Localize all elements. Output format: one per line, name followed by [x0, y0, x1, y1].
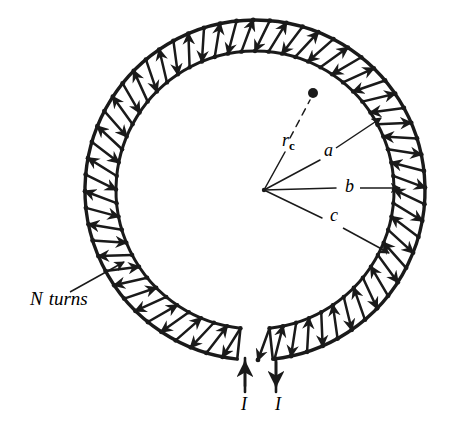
winding-outer-node: [395, 280, 400, 285]
winding-outer-node: [289, 354, 294, 359]
winding-outer-node: [234, 19, 239, 24]
label-current-in: I: [240, 394, 248, 414]
winding-turn: [391, 217, 418, 237]
winding-inner-node: [125, 134, 129, 138]
winding-inner-node: [307, 316, 311, 320]
winding-turn: [321, 312, 322, 346]
winding-inner-node: [266, 49, 270, 53]
winding-outer-node: [331, 37, 336, 42]
winding-inner-node: [389, 160, 393, 164]
winding-outer-node: [305, 349, 310, 354]
winding-inner-node: [114, 201, 118, 205]
winding-turn: [275, 326, 283, 359]
winding-inner-node: [187, 65, 191, 69]
winding-turn: [228, 21, 237, 54]
winding-turn: [93, 240, 127, 242]
winding-inner-node: [164, 295, 168, 299]
winding-outer-node: [409, 120, 414, 125]
winding-turn: [97, 126, 122, 149]
winding-inner-node: [238, 326, 242, 330]
winding-inner-node: [360, 99, 364, 103]
winding-turn: [191, 323, 214, 348]
winding-inner-node: [115, 174, 119, 178]
winding-turn: [307, 318, 309, 352]
winding-outer-node: [83, 172, 88, 177]
winding-outer-node: [383, 78, 388, 83]
label-radius-a: a: [324, 140, 333, 160]
winding-outer-node: [422, 202, 427, 207]
winding-inner-node: [351, 89, 355, 93]
winding-outer-node: [96, 254, 101, 259]
winding-inner-node: [199, 316, 203, 320]
winding-outer-node: [359, 55, 364, 60]
winding-inner-node: [212, 321, 216, 325]
winding-outer-node: [371, 66, 376, 71]
winding-turn: [370, 108, 403, 113]
winding-inner-node: [369, 264, 373, 268]
winding-turn: [146, 60, 157, 92]
winding-outer-node: [419, 152, 424, 157]
winding-turn: [148, 305, 177, 322]
winding-outer-node: [157, 47, 162, 52]
winding-outer-node: [422, 169, 427, 174]
winding-inner-node: [368, 110, 372, 114]
winding-turn: [113, 97, 133, 124]
winding-turn: [333, 305, 338, 338]
current-leads-group: [245, 358, 276, 392]
winding-turn: [86, 175, 116, 190]
winding-turn: [383, 136, 417, 138]
winding-inner-node: [391, 174, 395, 178]
winding-outer-node: [188, 345, 193, 350]
winding-turn: [206, 326, 227, 353]
winding-turn: [124, 288, 156, 299]
winding-turn: [295, 32, 318, 57]
winding-outer-node: [220, 354, 225, 359]
winding-turn: [282, 27, 302, 54]
winding-outer-node: [83, 189, 88, 194]
winding-outer-node: [316, 30, 321, 35]
winding-inner-node: [386, 147, 390, 151]
winding-inner-node: [116, 214, 120, 218]
winding-inner-node: [376, 253, 380, 257]
winding-outer-node: [173, 338, 178, 343]
winding-outer-node: [131, 68, 136, 73]
winding-outer-node: [202, 25, 207, 30]
winding-turn: [388, 149, 421, 154]
winding-outer-node: [423, 185, 428, 190]
winding-inner-node: [319, 310, 323, 314]
winding-turn: [371, 267, 388, 296]
winding-outer-node: [204, 351, 209, 356]
winding-outer-node: [102, 109, 107, 114]
winding-inner-node: [352, 286, 356, 290]
winding-outer-node: [401, 106, 406, 111]
winding-outer-node: [133, 308, 138, 313]
winding-outer-node: [345, 45, 350, 50]
winding-outer-node: [256, 358, 261, 363]
winding-turn: [343, 68, 374, 82]
rc-dashed-line: [290, 100, 310, 138]
winding-inner-node: [226, 51, 230, 55]
toroid-figure: rc a b c Nturns I I: [0, 0, 451, 434]
winding-inner-node: [120, 147, 124, 151]
winding-outer-node: [122, 296, 127, 301]
winding-turn: [215, 24, 220, 57]
leader-arrow-c: [343, 228, 389, 253]
winding-inner-node: [341, 80, 345, 84]
winding-outer-node: [112, 283, 117, 288]
label-n-symbol: N: [29, 288, 44, 309]
winding-inner-node: [165, 80, 169, 84]
winding-inner-node: [213, 55, 217, 59]
label-rc-subscript: c: [289, 138, 295, 153]
toroid-winding-group: [83, 18, 428, 363]
winding-inner-node: [114, 187, 118, 191]
winding-inner-node: [386, 228, 390, 232]
winding-inner-node: [342, 295, 346, 299]
winding-outer-node: [110, 94, 115, 99]
winding-turn: [86, 208, 119, 217]
winding-turn: [255, 21, 270, 51]
winding-turn: [353, 81, 385, 92]
winding-outer-node: [171, 38, 176, 43]
winding-turn: [114, 278, 147, 286]
winding-turn: [176, 318, 201, 340]
winding-inner-node: [175, 303, 179, 307]
